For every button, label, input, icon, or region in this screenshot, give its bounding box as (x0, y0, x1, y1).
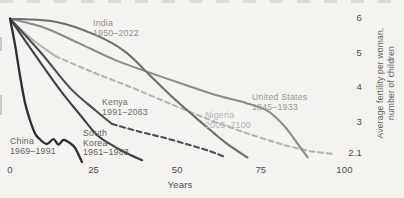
x-axis-title: Years (168, 179, 193, 190)
x-tick-50: 50 (172, 164, 183, 175)
x-tick-75: 75 (255, 164, 266, 175)
y-tick-2.1: 2.1 (348, 146, 362, 157)
y-tick-6: 6 (357, 12, 362, 23)
y-tick-4: 4 (357, 81, 362, 92)
india-label: India1950–2022 (93, 19, 139, 38)
kenya-label-line: 1991–2063 (102, 108, 148, 118)
china-label: China1969–1991 (10, 137, 56, 156)
y-axis-title-line2: number of children (386, 46, 396, 120)
x-tick-25: 25 (88, 164, 99, 175)
x-tick-0: 0 (7, 164, 12, 175)
fertility-decline-chart: Nigeria2005–2100United States1845–1933In… (0, 0, 404, 198)
united-states-label-line: 1845–1933 (252, 103, 307, 113)
nigeria-label: Nigeria2005–2100 (205, 111, 251, 130)
nigeria-label-line: 2005–2100 (205, 121, 251, 131)
y-tick-5: 5 (357, 46, 362, 57)
y-tick-3: 3 (357, 115, 362, 126)
y-axis-title-line1: Average fertility per woman, (375, 28, 385, 139)
china-label-line: 1969–1991 (10, 147, 56, 157)
united-states-label: United States1845–1933 (252, 93, 307, 112)
india-label-line: 1950–2022 (93, 29, 139, 39)
x-tick-100: 100 (336, 164, 352, 175)
kenya-label: Kenya1991–2063 (102, 98, 148, 117)
south-korea-label: SouthKorea1961–1983 (83, 129, 129, 158)
south-korea-label-line: 1961–1983 (83, 148, 129, 158)
